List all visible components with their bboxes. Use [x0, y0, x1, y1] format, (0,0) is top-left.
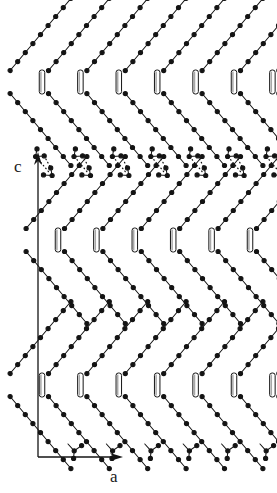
carbon-atom: [185, 258, 189, 262]
oxygen-atom: [148, 456, 152, 460]
carbon-atom: [200, 136, 204, 140]
carbon-atom: [46, 68, 50, 72]
carbon-atom: [215, 154, 219, 158]
carbon-atom: [177, 109, 181, 113]
c-axis-label: c: [14, 157, 22, 176]
bar-shading: [56, 230, 58, 251]
bar-shading: [248, 230, 250, 251]
carbon-atom: [246, 285, 250, 289]
carbon-atom: [54, 14, 58, 18]
carbon-atom: [254, 181, 258, 185]
carbon-atom: [70, 258, 74, 262]
carbon-atom: [146, 118, 150, 122]
vertical-bar-r2-c0: [39, 373, 45, 397]
carbon-atom: [207, 448, 211, 452]
oxygen-atom: [149, 154, 153, 158]
carbon-atom: [215, 412, 219, 416]
bar-shading: [95, 230, 97, 251]
carbon-atom: [270, 208, 274, 212]
oxygen-atom: [189, 147, 193, 151]
bar-shading: [194, 375, 196, 396]
carbon-atom: [23, 353, 27, 357]
carbon-atom: [192, 127, 196, 131]
bar-shading: [133, 230, 135, 251]
carbon-atom: [62, 109, 66, 113]
carbon-atom: [78, 267, 82, 271]
carbon-atom: [269, 430, 273, 434]
carbon-atom: [200, 326, 204, 330]
oxygen-atom: [50, 173, 54, 177]
oxygen-atom: [226, 449, 230, 453]
oxygen-atom: [118, 173, 122, 177]
carbon-atom: [69, 41, 73, 45]
carbon-atom: [100, 412, 104, 416]
carbon-atom: [185, 217, 189, 221]
carbon-atom: [147, 258, 151, 262]
carbon-atom: [46, 439, 50, 443]
carbon-atom: [238, 136, 242, 140]
carbon-atom: [208, 403, 212, 407]
carbon-atom: [100, 294, 104, 298]
carbon-atom: [146, 421, 150, 425]
carbon-atom: [47, 276, 51, 280]
carbon-atom: [231, 312, 235, 316]
oxygen-atom: [264, 456, 268, 460]
carbon-atom: [138, 109, 142, 113]
carbon-atom: [154, 312, 158, 316]
carbon-atom: [101, 226, 105, 230]
oxygen-atom: [149, 449, 153, 453]
carbon-atom: [239, 199, 243, 203]
carbon-atom: [92, 59, 96, 63]
carbon-atom: [246, 59, 250, 63]
bar-shading: [79, 375, 81, 396]
carbon-atom: [92, 14, 96, 18]
carbon-atom: [216, 226, 220, 230]
carbon-atom: [100, 109, 104, 113]
carbon-atom: [238, 439, 242, 443]
bar-shading: [232, 72, 234, 93]
oxygen-atom: [227, 147, 231, 151]
carbon-atom: [223, 421, 227, 425]
carbon-atom: [253, 5, 257, 9]
carbon-atom: [200, 68, 204, 72]
carbon-atom: [8, 91, 12, 95]
oxygen-atom: [195, 173, 199, 177]
carbon-atom: [131, 59, 135, 63]
oxygen-atom: [35, 147, 39, 151]
carbon-atom: [184, 344, 188, 348]
carbon-atom: [254, 294, 258, 298]
carbon-atom: [184, 299, 188, 303]
carbon-atom: [130, 145, 134, 149]
carbon-atom: [84, 439, 88, 443]
carbon-atom: [192, 430, 196, 434]
carbon-atom: [200, 154, 204, 158]
carbon-atom: [138, 412, 142, 416]
carbon-atom: [108, 172, 112, 176]
carbon-atom: [230, 335, 234, 339]
carbon-atom: [200, 276, 204, 280]
carbon-atom: [38, 430, 42, 434]
carbon-atom: [85, 68, 89, 72]
carbon-atom: [92, 403, 96, 407]
carbon-atom: [200, 199, 204, 203]
carbon-atom: [192, 335, 196, 339]
carbon-atom: [123, 371, 127, 375]
carbon-atom: [139, 249, 143, 253]
carbon-atom: [238, 23, 242, 27]
bar-outline: [154, 373, 160, 397]
bar-outline: [231, 70, 237, 94]
bar-shading: [271, 72, 273, 93]
carbon-atom: [154, 208, 158, 212]
vertical-bar-r0-c3: [154, 70, 160, 94]
carbon-atom: [254, 249, 258, 253]
bar-shading: [194, 72, 196, 93]
carbon-atom: [38, 127, 42, 131]
carbon-atom: [261, 41, 265, 45]
carbon-atom: [261, 0, 265, 1]
oxygen-atom: [204, 173, 208, 177]
carbon-atom: [261, 421, 265, 425]
oxygen-atom: [195, 444, 199, 448]
carbon-atom: [85, 199, 89, 203]
carbon-atom: [223, 344, 227, 348]
carbon-atom: [184, 466, 188, 470]
